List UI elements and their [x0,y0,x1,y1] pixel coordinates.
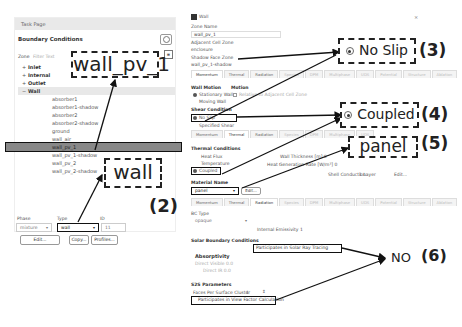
panel-callout: panel [348,136,418,158]
label-2: (2) [149,195,178,216]
label-5: (5) [421,133,448,153]
callout-text: No Slip [359,42,408,58]
wall-type-callout: wall [104,158,162,188]
wall-pv-1-callout: wall_pv_1 [71,51,159,78]
no-slip-callout: No Slip [338,38,416,64]
label-4: (4) [421,104,448,124]
label-6: (6) [421,246,447,265]
callout-text: Coupled [357,106,415,122]
label-3: (3) [419,40,446,60]
coupled-callout: Coupled [340,102,419,128]
no-text: NO [391,250,411,265]
